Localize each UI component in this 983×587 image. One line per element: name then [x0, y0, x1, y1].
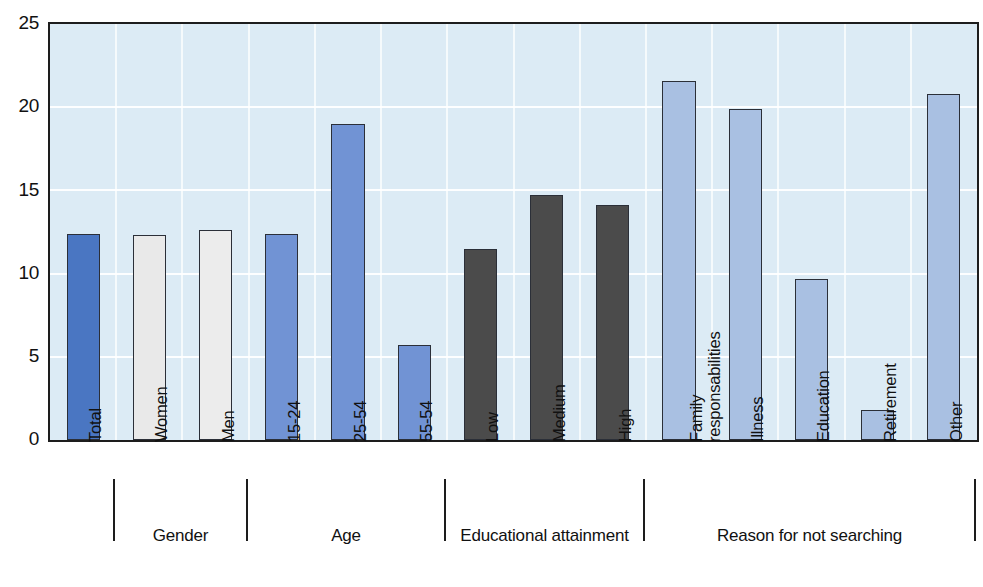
category-label-retirement: Retirement	[882, 363, 899, 442]
category-label-women: Women	[153, 386, 170, 442]
gridline-vertical	[248, 24, 250, 440]
bar-men	[199, 230, 232, 440]
category-label-high: High	[617, 409, 634, 442]
group-separator	[444, 479, 446, 541]
category-label-men: Men	[220, 411, 237, 443]
category-label-low: Low	[484, 412, 501, 442]
bar-chart: 25 20 15 10 5 0 Total Women Men 15-24 25…	[0, 0, 983, 587]
gridline-vertical	[115, 24, 117, 440]
y-tick-label-15: 15	[18, 180, 39, 199]
gridline-vertical	[181, 24, 183, 440]
category-label-medium: Medium	[551, 385, 568, 443]
category-label-25-54: 25-54	[352, 401, 369, 442]
gridline-vertical	[844, 24, 846, 440]
group-label-age: Age	[331, 527, 361, 545]
bar-illness	[729, 109, 762, 440]
group-separator	[113, 479, 115, 541]
group-label-educational-attainment: Educational attainment	[460, 527, 629, 545]
group-label-gender: Gender	[153, 527, 209, 545]
bar-high	[596, 205, 629, 440]
gridline-vertical	[645, 24, 647, 440]
category-label-family-line1: Family	[687, 395, 705, 442]
category-label-55-54: 55-54	[418, 401, 435, 442]
gridline-vertical	[513, 24, 515, 440]
plot-area	[48, 22, 979, 442]
category-label-total: Total	[87, 408, 104, 442]
y-tick-label-5: 5	[29, 346, 39, 365]
group-separator	[246, 479, 248, 541]
y-tick-label-20: 20	[18, 96, 39, 115]
category-label-family-line2: responsabilities	[705, 331, 723, 442]
category-group-layer: Gender Age Educational attainment Reason…	[48, 442, 975, 587]
group-separator	[974, 479, 976, 541]
y-tick-label-10: 10	[18, 263, 39, 282]
y-tick-label-25: 25	[18, 13, 39, 32]
y-axis: 25 20 15 10 5 0	[0, 0, 47, 587]
category-label-illness: Illness	[749, 397, 766, 442]
category-label-education: Education	[815, 370, 832, 442]
category-label-other: Other	[948, 402, 965, 442]
group-label-reason-not-searching: Reason for not searching	[717, 527, 902, 545]
gridline-vertical	[446, 24, 448, 440]
category-label-family-responsabilities: Familyresponsabilities	[687, 331, 723, 442]
gridline-vertical	[380, 24, 382, 440]
y-tick-label-0: 0	[29, 429, 39, 448]
gridline-vertical	[314, 24, 316, 440]
gridline-vertical	[579, 24, 581, 440]
gridline-vertical	[777, 24, 779, 440]
category-label-15-24: 15-24	[286, 401, 303, 442]
bar-other	[927, 94, 960, 440]
group-separator	[643, 479, 645, 541]
gridline-vertical	[910, 24, 912, 440]
bar-25-54	[331, 124, 364, 440]
